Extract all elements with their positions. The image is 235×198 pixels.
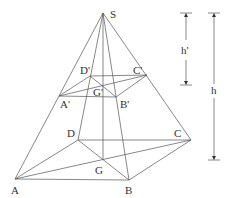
label-C: C xyxy=(174,127,181,139)
label-D: D xyxy=(67,127,75,139)
label-C-prime: C' xyxy=(133,64,142,76)
label-A-prime: A' xyxy=(60,98,70,110)
label-G-prime: G' xyxy=(93,86,103,98)
label-D-prime: D' xyxy=(80,64,90,76)
dimension-h: h xyxy=(208,13,220,160)
label-h: h xyxy=(211,84,217,96)
label-G: G xyxy=(95,164,103,176)
point-labels: S A B C D G A' B' C' D' G' xyxy=(11,8,181,196)
label-B-prime: B' xyxy=(120,98,129,110)
pyramid-diagram: S A B C D G A' B' C' D' G' h' h xyxy=(0,0,235,198)
label-S: S xyxy=(110,8,116,20)
label-A: A xyxy=(11,184,19,196)
label-B: B xyxy=(125,184,132,196)
label-h-prime: h' xyxy=(181,44,189,56)
dimension-h-prime: h' xyxy=(180,13,192,85)
